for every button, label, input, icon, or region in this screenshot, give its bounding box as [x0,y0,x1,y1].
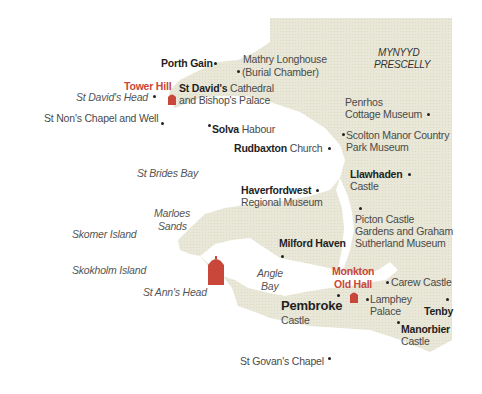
tower-hill-label: Tower Hill [124,80,171,92]
haverfordwest-label-1: Haverfordwest [241,184,311,196]
mathry-longhouse-label-1: Mathry Longhouse [243,53,327,65]
monkton-old-hall-label-1: Monkton [332,265,374,277]
st-govans-chapel-label: St Govan's Chapel [240,355,324,367]
picton-castle-label-2: Gardens and Graham [355,225,453,237]
solva-habour-label: Solva Habour [212,123,275,135]
haverfordwest-marker [316,189,319,192]
monkton-old-hall-label-2: Old Hall [334,278,372,290]
picton-castle-label-1: Picton Castle [355,213,414,225]
lamphey-marker [366,298,369,301]
solva-marker [208,124,211,127]
st-nons-chapel-marker [161,122,164,125]
mathry-longhouse-label-2: (Burial Chamber) [242,66,319,78]
manorbier-label-1: Manorbier [401,323,450,335]
tenby-label: Tenby [424,305,453,317]
mynydd-prescelly-label-1: MYNYYD [378,47,420,58]
st-anns-head-label: St Ann's Head [143,286,207,298]
manorbier-label-2: Castle [401,335,430,347]
tenby-marker [446,298,449,301]
lamphey-label-1: Lamphey [370,293,412,305]
pembroke-label-1: Pembroke [281,299,342,313]
penrhos-marker [427,113,430,116]
milford-haven-label: Milford Haven [279,237,346,249]
llawhaden-label-2: Castle [350,180,379,192]
picton-castle-marker [359,207,362,210]
st-nons-chapel-label: St Non's Chapel and Well [44,112,158,124]
st-davids-head-marker [153,95,156,98]
llawhaden-marker [408,173,411,176]
porth-gain-marker [214,62,217,65]
rudbaxton-church-marker [328,147,331,150]
tower-icon [168,93,176,105]
tower-icon [350,291,358,303]
carew-castle-label: Carew Castle [391,276,452,288]
penrhos-label-1: Penrhos [345,96,383,108]
st-davids-cathedral-label-2: and Bishop's Palace [179,94,270,106]
scolton-manor-label-2: Park Museum [346,141,409,153]
scolton-manor-marker [342,133,345,136]
st-brides-bay-label: St Brides Bay [137,167,198,179]
rudbaxton-church-label: Rudbaxton Church [234,142,322,154]
mynydd-prescelly-label-2: PRESCELLY [374,59,430,70]
st-govans-chapel-marker [328,357,331,360]
carew-castle-marker [386,281,389,284]
porth-gain-label: Porth Gain [161,57,213,69]
marloes-sands-label-2: Sands [158,220,187,232]
angle-bay-label-1: Angle [257,267,283,279]
pembroke-marker [337,294,340,297]
tower-icon [207,255,225,285]
pembroke-label-2: Castle [281,314,310,326]
scolton-manor-label-1: Scolton Manor Country [346,129,449,141]
haverfordwest-label-2: Regional Museum [241,196,323,208]
penrhos-label-2: Cottage Museum [345,108,422,120]
angle-bay-label-2: Bay [261,280,279,292]
skomer-island-label: Skomer Island [72,228,137,240]
manorbier-marker [397,321,400,324]
lamphey-label-2: Palace [370,305,401,317]
marloes-sands-label-1: Marloes [154,207,190,219]
picton-castle-label-3: Sutherland Museum [355,237,446,249]
st-davids-head-label: St David's Head [76,91,148,103]
st-davids-cathedral-label-1: St David's Cathedral [179,82,274,94]
llawhaden-label-1: Llawhaden [350,168,402,180]
milford-haven-marker [281,255,284,258]
skokholm-island-label: Skokholm Island [72,264,146,276]
mathry-longhouse-marker [237,70,240,73]
